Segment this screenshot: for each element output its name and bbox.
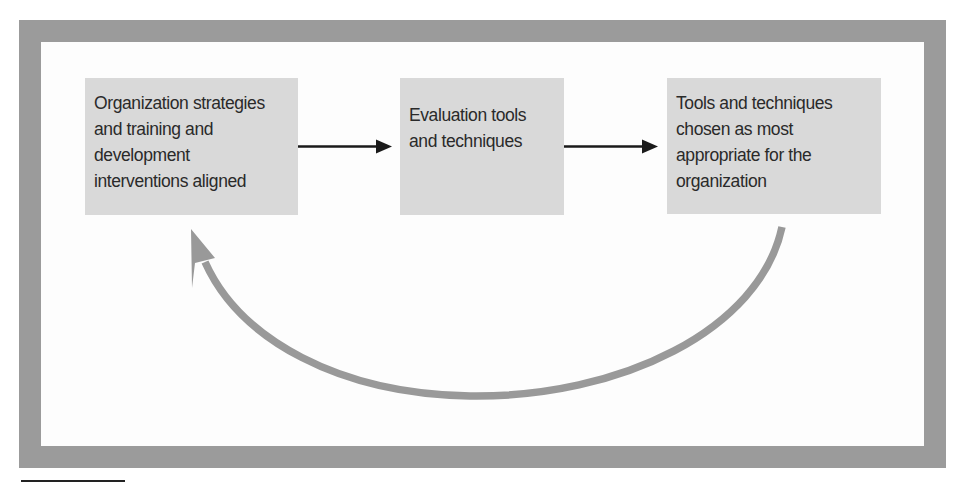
- box-text-line: and training and: [94, 116, 288, 142]
- box-text-line: appropriate for the: [676, 142, 871, 168]
- box-tools-chosen: Tools and techniques chosen as most appr…: [667, 78, 881, 214]
- box-text-line: interventions aligned: [94, 168, 288, 194]
- box-evaluation-tools: Evaluation tools and techniques: [400, 78, 564, 215]
- caption-rule: [21, 480, 125, 482]
- box-text-line: chosen as most: [676, 116, 871, 142]
- box-text-line: Evaluation tools: [409, 102, 554, 128]
- box-text-line: development: [94, 142, 288, 168]
- box-text-line: and techniques: [409, 128, 554, 154]
- box-text-line: Organization strategies: [94, 90, 288, 116]
- box-organization-strategies: Organization strategies and training and…: [85, 78, 298, 215]
- box-text-line: organization: [676, 168, 871, 194]
- box-text-line: Tools and techniques: [676, 90, 871, 116]
